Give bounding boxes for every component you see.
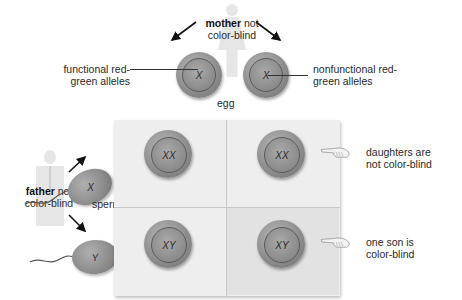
label-line: nonfunctional red- — [313, 63, 397, 75]
label-line: functional red- — [63, 63, 130, 75]
grid-divider — [114, 207, 340, 208]
offspring-cell: XX — [144, 130, 192, 178]
leader-line — [268, 75, 308, 76]
grid-divider — [226, 120, 227, 296]
pointing-hand-icon — [318, 235, 354, 249]
offspring-nucleus: XX — [264, 137, 300, 173]
pointing-hand-icon — [318, 145, 354, 159]
nonfunctional-allele-label: nonfunctional red- green alleles — [313, 63, 433, 87]
son-note: one son is color-blind — [366, 236, 414, 260]
offspring-cell: XX — [257, 130, 305, 178]
egg-allele: X — [196, 70, 203, 81]
genotype: XY — [275, 240, 288, 251]
arrow-to-egg-right-icon — [252, 18, 286, 46]
sperm-tail-icon — [28, 250, 78, 270]
genotype: XY — [162, 240, 175, 251]
arrow-to-egg-left-icon — [166, 18, 200, 46]
functional-allele-label: functional red- green alleles — [34, 63, 130, 87]
egg-nucleus: X — [182, 58, 216, 92]
offspring-cell: XY — [257, 220, 305, 268]
note-line: color-blind — [366, 248, 414, 260]
father-head-icon — [44, 150, 56, 164]
daughters-note: daughters are not color-blind — [366, 146, 432, 170]
leader-line — [130, 69, 198, 70]
sperm-allele: Y — [91, 251, 99, 263]
offspring-cell: XY — [144, 220, 192, 268]
genotype: XX — [275, 150, 288, 161]
genotype: XX — [162, 150, 175, 161]
note-line: daughters are — [366, 146, 431, 158]
mother-label-bold: mother — [205, 17, 241, 29]
egg-label: egg — [217, 97, 235, 109]
label-line: green alleles — [70, 75, 130, 87]
offspring-nucleus: XY — [264, 227, 300, 263]
note-line: one son is — [366, 236, 414, 248]
offspring-nucleus: XY — [151, 227, 187, 263]
mother-silhouette-icon — [226, 4, 238, 16]
punnett-square: XX XX XY XY — [114, 120, 340, 296]
sperm-y: Y — [71, 238, 120, 276]
sperm-allele: X — [87, 182, 94, 193]
label-line: green alleles — [313, 75, 373, 87]
note-line: not color-blind — [366, 158, 432, 170]
offspring-nucleus: XX — [151, 137, 187, 173]
mother-label-line2: color-blind — [208, 29, 256, 41]
arrow-to-sperm-y-icon — [66, 212, 90, 236]
egg-cell-functional: X — [176, 52, 222, 98]
